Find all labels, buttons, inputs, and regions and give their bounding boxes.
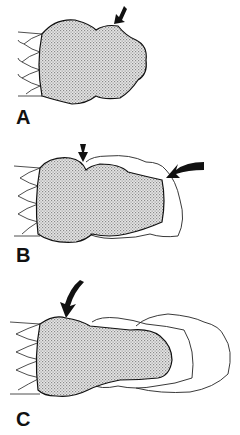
panel-label-b: B bbox=[16, 244, 30, 267]
panel-c: C bbox=[0, 280, 240, 435]
panel-label-c: C bbox=[16, 408, 30, 431]
panel-b-drawing bbox=[0, 140, 240, 280]
panel-label-a: A bbox=[16, 106, 30, 129]
scale-pattern bbox=[18, 32, 42, 96]
scale-pattern bbox=[10, 322, 40, 394]
curved-arrow-icon bbox=[60, 280, 84, 318]
arrow-down-icon bbox=[78, 144, 88, 162]
panel-b: B bbox=[0, 140, 240, 280]
shaded-tip bbox=[39, 20, 146, 104]
panel-a: A bbox=[0, 0, 240, 140]
shaded-tip bbox=[36, 158, 164, 243]
shaded-tip bbox=[36, 317, 172, 397]
curved-arrow-icon bbox=[166, 162, 204, 178]
panel-a-drawing bbox=[0, 0, 240, 140]
arrow-icon bbox=[114, 6, 127, 24]
panel-c-drawing bbox=[0, 280, 240, 435]
